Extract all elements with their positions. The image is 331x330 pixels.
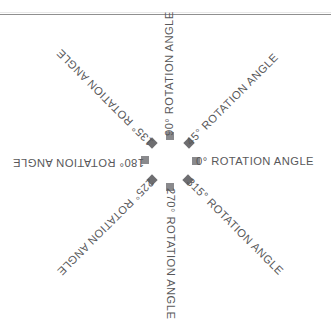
rotation-label-270: 270° ROTATION ANGLE: [164, 188, 175, 319]
rotation-label-90: 90° ROTATION ANGLE: [164, 11, 175, 136]
rotation-label-225: 225° ROTATION ANGLE: [55, 176, 156, 277]
rotation-label-group: 0° ROTATION ANGLE45° ROTATION ANGLE90° R…: [0, 0, 331, 330]
rotation-label-135: 135° ROTATION ANGLE: [55, 47, 156, 148]
rotation-label-45: 45° ROTATION ANGLE: [184, 51, 280, 147]
figure-canvas: 0° ROTATION ANGLE45° ROTATION ANGLE90° R…: [0, 0, 331, 330]
rotation-label-180: 180° ROTATION ANGLE: [13, 156, 144, 167]
rotation-label-0: 0° ROTATION ANGLE: [196, 156, 314, 167]
rotation-label-315: 315° ROTATION ANGLE: [184, 176, 285, 277]
